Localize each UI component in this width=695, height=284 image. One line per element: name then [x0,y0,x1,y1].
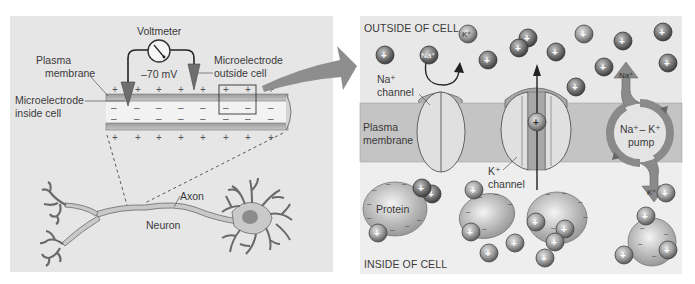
svg-text:+: + [135,84,141,95]
svg-text:–: – [367,199,372,208]
svg-text:+: + [619,36,625,47]
cation-ion: + [536,249,554,267]
cation-ion: + [547,43,565,61]
svg-text:–: – [466,207,471,216]
svg-text:+: + [511,238,517,249]
cation-ion: + [567,78,585,96]
plasma-membrane-right-label-2: membrane [363,134,413,146]
cation-ion: + [506,234,524,252]
svg-text:–: – [508,199,513,208]
svg-text:+: + [156,132,162,143]
svg-text:–: – [546,189,551,198]
pump-label-1: Na⁺– K⁺ [620,123,661,135]
svg-text:–: – [245,113,251,124]
k-channel-label-1: K⁺ [488,165,501,177]
svg-text:+: + [662,188,668,199]
svg-text:–: – [245,102,251,113]
svg-text:–: – [268,113,274,124]
k-ion: K⁺ [459,25,477,43]
left-panel: Voltmeter –70 mV + + + + + + + + – [10,16,333,272]
svg-text:+: + [156,84,162,95]
svg-text:+: + [551,237,557,248]
svg-text:+: + [561,224,567,235]
svg-text:–: – [402,179,407,188]
svg-text:–: – [390,225,395,234]
svg-text:–: – [200,113,206,124]
svg-text:–: – [223,102,229,113]
svg-text:+: + [485,248,491,259]
svg-text:+: + [470,185,476,196]
svg-text:+: + [642,211,648,222]
svg-text:–: – [156,113,162,124]
voltmeter-label: Voltmeter [137,25,182,37]
svg-text:Na⁺: Na⁺ [421,51,435,60]
na-channel [417,92,465,172]
pump-label-2: pump [628,136,654,148]
pump-k-label: K⁺ [647,188,656,197]
cation-ion: + [615,246,633,264]
svg-text:–: – [638,239,643,248]
na-ion: Na⁺ [420,46,438,64]
svg-text:–: – [583,212,588,221]
svg-text:+: + [223,132,229,143]
cation-ion: + [465,181,483,199]
microelectrode-outside-label-1: Microelectrode [214,54,283,66]
microelectrode-inside-label-2: inside cell [15,107,61,119]
svg-text:+: + [541,253,547,264]
cation-ion: + [595,58,613,76]
svg-text:–: – [111,113,117,124]
svg-text:+: + [200,84,206,95]
svg-text:–: – [386,179,391,188]
svg-text:–: – [494,189,499,198]
cation-ion: + [637,207,655,225]
svg-text:–: – [482,224,487,233]
right-panel: OUTSIDE OF CELL INSIDE OF CELL Plasma me… [360,16,682,274]
outside-of-cell-label: OUTSIDE OF CELL [364,22,459,34]
svg-text:+: + [515,43,521,54]
cation-ion: + [480,244,498,262]
voltmeter-icon [148,40,170,62]
svg-text:+: + [664,245,670,256]
svg-text:–: – [111,102,117,113]
svg-text:+: + [112,132,118,143]
microelectrode-inside-label-1: Microelectrode [15,94,84,106]
svg-text:+: + [532,217,538,228]
svg-text:+: + [659,27,665,38]
cation-ion: + [462,223,480,241]
svg-text:+: + [620,250,626,261]
pump-na-label: Na⁺ [619,71,633,80]
inside-of-cell-label: INSIDE OF CELL [364,258,447,270]
svg-text:+: + [374,228,380,239]
svg-text:+: + [418,183,424,194]
svg-text:–: – [367,213,372,222]
svg-text:+: + [245,84,251,95]
na-channel-label-2: channel [377,86,414,98]
cation-ion: + [659,54,677,72]
svg-text:–: – [405,221,410,230]
cation-ion: + [614,32,632,50]
cation-ion: + [527,213,545,231]
svg-text:–: – [178,102,184,113]
cation-in-channel: + [528,113,546,131]
svg-text:–: – [223,113,229,124]
cation-ion: + [376,46,394,64]
cation-ion: + [479,51,497,69]
svg-text:K⁺: K⁺ [462,30,471,39]
svg-text:+: + [178,84,184,95]
svg-text:+: + [484,55,490,66]
svg-text:+: + [467,227,473,238]
svg-text:–: – [417,215,422,224]
svg-text:+: + [381,50,387,61]
svg-text:–: – [156,102,162,113]
plasma-membrane-label-2: membrane [45,67,95,79]
na-channel-label-1: Na⁺ [377,73,396,85]
diagram-canvas: Voltmeter –70 mV + + + + + + + + – [0,0,695,284]
svg-text:+: + [135,132,141,143]
plasma-membrane-right-label-1: Plasma [363,121,398,133]
cation-ion: + [369,224,387,242]
svg-text:–: – [178,113,184,124]
svg-text:+: + [552,47,558,58]
svg-text:–: – [578,197,583,206]
svg-text:–: – [134,113,140,124]
voltage-reading: –70 mV [141,68,177,80]
